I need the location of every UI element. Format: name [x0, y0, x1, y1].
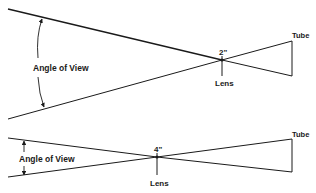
bottom-focal-label: 4" — [154, 145, 162, 154]
top-upper-ray — [8, 9, 222, 60]
top-diagram: Angle of View 2" Lens Tube — [8, 9, 309, 119]
angle-of-view-diagram: Angle of View 2" Lens Tube Angle of View… — [0, 0, 316, 193]
bottom-lens-point — [155, 155, 158, 158]
bottom-diagram: Angle of View 4" Lens Tube — [8, 130, 309, 188]
top-angle-arc-lower — [38, 77, 44, 107]
bottom-tube-label: Tube — [292, 130, 309, 139]
top-lower-ray-extension — [222, 41, 292, 60]
top-upper-ray-extension — [222, 60, 292, 76]
bottom-upper-ray-extension — [157, 157, 292, 172]
top-angle-arc-upper — [38, 19, 43, 58]
top-lens-point — [220, 58, 223, 61]
top-angle-label: Angle of View — [33, 63, 89, 73]
top-lens-label: Lens — [215, 79, 234, 88]
bottom-lower-ray-extension — [157, 139, 292, 157]
bottom-angle-label: Angle of View — [19, 154, 75, 164]
top-focal-label: 2" — [219, 48, 227, 57]
top-tube-label: Tube — [292, 31, 309, 40]
bottom-lens-label: Lens — [150, 179, 169, 188]
